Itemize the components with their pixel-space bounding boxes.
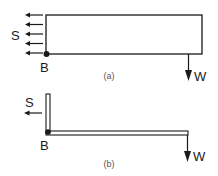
shear-label: S bbox=[11, 28, 20, 43]
pivot-point-icon bbox=[45, 129, 50, 134]
shear-arrow-icon bbox=[24, 111, 42, 116]
shear-arrows bbox=[25, 13, 43, 56]
weight-label: W bbox=[194, 69, 207, 84]
horizontal-member bbox=[46, 131, 188, 135]
figure-a: S B W (a) bbox=[11, 13, 207, 85]
shear-label: S bbox=[25, 95, 34, 110]
figure-b: S B W (b) bbox=[24, 94, 206, 169]
pivot-label: B bbox=[40, 60, 49, 75]
weight-label: W bbox=[193, 149, 206, 164]
vertical-member bbox=[46, 94, 50, 133]
diagram-canvas: S B W (a) S B W (b) bbox=[0, 0, 218, 176]
weight-arrow-icon bbox=[184, 135, 191, 162]
pivot-label: B bbox=[40, 138, 49, 153]
weight-arrow-icon bbox=[185, 54, 192, 81]
panel-rectangle bbox=[46, 15, 202, 54]
pivot-point-icon bbox=[44, 51, 50, 57]
figure-caption-b: (b) bbox=[104, 159, 115, 169]
figure-caption-a: (a) bbox=[104, 71, 115, 81]
